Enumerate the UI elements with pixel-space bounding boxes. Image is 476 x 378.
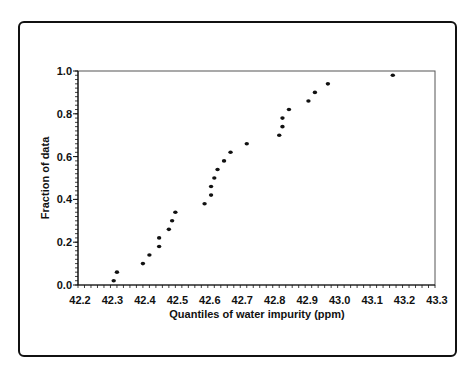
data-point [173,210,177,214]
data-point [228,151,232,155]
data-point [170,219,174,223]
data-point [391,73,395,77]
scatter-chart: 42.242.342.442.542.642.742.842.943.043.1… [0,0,476,378]
data-point [245,142,249,146]
data-point [157,236,161,240]
x-tick-label: 42.7 [232,294,253,306]
x-tick-label: 42.8 [264,294,285,306]
x-tick-label: 42.9 [296,294,317,306]
x-axis: 42.242.342.442.542.642.742.842.943.043.1… [69,285,447,306]
data-point [280,125,284,129]
data-point [141,262,145,266]
x-tick-label: 43.1 [361,294,382,306]
x-tick-label: 42.5 [167,294,188,306]
data-points [112,73,396,282]
x-tick-label: 42.6 [199,294,220,306]
y-tick-label: 0.6 [57,151,72,163]
x-tick-label: 43.3 [426,294,447,306]
data-point [147,253,151,257]
data-point [215,168,219,172]
x-tick-label: 43.2 [394,294,415,306]
data-point [280,116,284,120]
data-point [202,202,206,206]
y-tick-label: 0.2 [57,236,72,248]
data-point [313,91,317,95]
y-tick-label: 0.8 [57,108,72,120]
data-point [167,228,171,232]
data-point [112,279,116,283]
data-point [277,133,281,137]
data-point [115,270,119,274]
y-axis: 0.00.20.40.60.81.0 [57,65,78,291]
plot-area [78,71,435,285]
data-point [209,185,213,189]
x-axis-title: Quantiles of water impurity (ppm) [169,308,345,320]
data-point [287,108,291,112]
x-tick-label: 42.2 [69,294,90,306]
y-axis-title: Fraction of data [39,136,51,219]
data-point [306,99,310,103]
data-point [209,193,213,197]
x-tick-label: 43.0 [329,294,350,306]
plot-border [78,71,435,285]
x-tick-label: 42.3 [102,294,123,306]
y-tick-label: 0.0 [57,279,72,291]
data-point [157,245,161,249]
data-point [222,159,226,163]
data-point [212,176,216,180]
y-tick-label: 0.4 [57,193,73,205]
data-point [326,82,330,86]
x-tick-label: 42.4 [134,294,156,306]
y-tick-label: 1.0 [57,65,72,77]
